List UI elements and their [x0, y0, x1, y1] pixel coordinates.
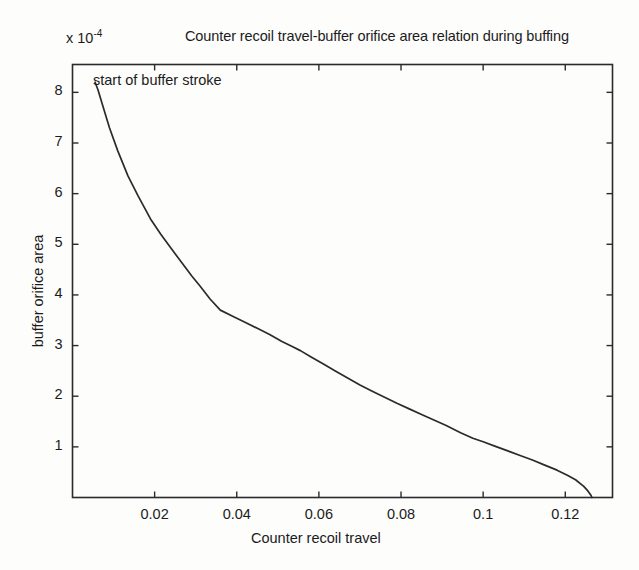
exponent-value: -4 — [93, 28, 102, 39]
y-tick-label-4: 5 — [41, 234, 63, 250]
y-tick-label-2: 3 — [41, 336, 63, 352]
y-axis-exponent-label: x 10-4 — [66, 30, 102, 46]
figure-canvas: Counter recoil travel-buffer orifice are… — [0, 0, 639, 570]
x-axis-label: Counter recoil travel — [251, 530, 381, 546]
y-tick-label-6: 7 — [41, 133, 63, 149]
x-tick-label-0: 0.02 — [130, 506, 180, 522]
x-tick-label-3: 0.08 — [376, 506, 426, 522]
y-tick-label-5: 6 — [41, 184, 63, 200]
chart-title: Counter recoil travel-buffer orifice are… — [185, 28, 569, 44]
exponent-prefix: x 10 — [66, 30, 93, 46]
y-tick-label-1: 2 — [41, 386, 63, 402]
data-series-line — [95, 82, 592, 497]
axis-frame — [73, 65, 613, 498]
y-tick-label-7: 8 — [41, 82, 63, 98]
x-tick-label-5: 0.12 — [540, 506, 590, 522]
annotation-start-of-buffer-stroke: start of buffer stroke — [93, 72, 222, 88]
x-axis-ticks — [155, 65, 566, 498]
y-tick-label-0: 1 — [41, 437, 63, 453]
x-tick-label-4: 0.1 — [458, 506, 508, 522]
x-tick-label-2: 0.06 — [294, 506, 344, 522]
x-tick-label-1: 0.04 — [212, 506, 262, 522]
y-axis-ticks — [73, 92, 613, 447]
y-tick-label-3: 4 — [41, 285, 63, 301]
